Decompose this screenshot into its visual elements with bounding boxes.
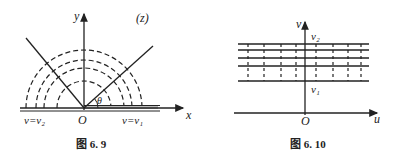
boundary-label-left: v=v₂ — [24, 114, 45, 126]
theta-label: θ — [97, 95, 102, 106]
caption-6-9: 图 6. 9 — [76, 138, 107, 150]
strip-label-top: v₂ — [311, 30, 320, 42]
boundary-label-right: v=v₁ — [122, 114, 143, 126]
v-axis-label: v — [296, 17, 302, 31]
origin-label-right: O — [301, 114, 310, 128]
plane-label: (z) — [136, 11, 149, 25]
origin-label-left: O — [78, 113, 87, 127]
strip-label-bottom: v₁ — [311, 83, 320, 95]
strip-lines — [238, 44, 369, 81]
figure-6-10 — [234, 22, 377, 115]
caption-6-10: 图 6. 10 — [290, 138, 326, 150]
y-axis-label: y — [73, 9, 80, 23]
ray-left — [26, 38, 84, 108]
x-axis-label: x — [185, 108, 192, 122]
u-axis-label: u — [374, 112, 380, 126]
figure-canvas: y x (z) O θ v=v₂ v=v₁ 图 6. 9 v u O v₂ v₁… — [0, 0, 400, 163]
